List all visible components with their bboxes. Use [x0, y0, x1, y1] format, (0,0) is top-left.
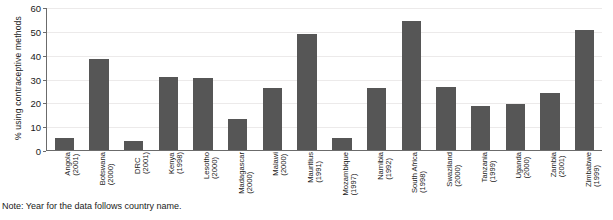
x-tick-label: Botswana(2000)	[99, 152, 116, 185]
category-slot: Malawi(2000)	[255, 152, 290, 198]
category-slot: Zambia(2001)	[533, 152, 568, 198]
x-tick-label: Madagascar(2000)	[238, 152, 255, 194]
x-tick-year: (2000)	[281, 152, 289, 176]
y-tick-label: 40	[30, 50, 41, 61]
bar-slot	[567, 8, 602, 150]
x-tick-year: (1992)	[385, 152, 393, 180]
category-slot: DRC(2001)	[116, 152, 151, 198]
x-tick-year: (2000)	[246, 152, 254, 194]
x-tick-year: (2000)	[524, 152, 532, 179]
x-tick-year: (1991)	[316, 152, 324, 183]
x-tick-year: (1997)	[350, 152, 358, 195]
x-tick-label: Mozambique(1997)	[342, 152, 359, 195]
x-tick-label: Kenya(1998)	[168, 152, 185, 174]
category-slot: Uganda(2000)	[498, 152, 533, 198]
chart-note: Note: Year for the data follows country …	[2, 201, 182, 211]
category-slot: Angola(2001)	[47, 152, 82, 198]
x-tick-label: Zimbabwe(1999)	[585, 152, 602, 187]
y-tick-mark	[43, 151, 46, 152]
category-slot: Mauritius(1991)	[290, 152, 325, 198]
x-tick-year: (1999)	[593, 152, 601, 187]
bar-slot	[325, 8, 360, 150]
y-tick-label: 0	[36, 146, 41, 157]
x-tick-year: (2000)	[212, 152, 220, 179]
bar	[228, 119, 247, 150]
x-tick-year: (2000)	[454, 152, 462, 187]
bar-slot	[255, 8, 290, 150]
bar	[436, 87, 455, 150]
y-tick-label: 60	[30, 3, 41, 14]
bar	[193, 78, 212, 150]
bar	[332, 138, 351, 150]
category-slot: Kenya(1998)	[151, 152, 186, 198]
bar	[540, 93, 559, 150]
x-tick-label: Swaziland(2000)	[446, 152, 463, 187]
bar-slot	[394, 8, 429, 150]
category-slot: Lesotho(2000)	[186, 152, 221, 198]
y-axis-title: % using contraceptive methods	[13, 3, 23, 153]
category-slot: Namibia(1992)	[359, 152, 394, 198]
x-tick-label: DRC(2001)	[134, 152, 151, 174]
category-slot: Madagascar(2000)	[220, 152, 255, 198]
x-tick-year: (1999)	[489, 152, 497, 182]
bar	[471, 106, 490, 150]
category-slot: Swaziland(2000)	[429, 152, 464, 198]
bar-slot	[498, 8, 533, 150]
bar-slot	[47, 8, 82, 150]
bar	[263, 88, 282, 150]
bar-slot	[116, 8, 151, 150]
x-tick-label: Zambia(2001)	[550, 152, 567, 177]
bar-slot	[220, 8, 255, 150]
x-tick-label: Lesotho(2000)	[203, 152, 220, 179]
bar-slot	[533, 8, 568, 150]
bar	[297, 34, 316, 150]
bar	[89, 59, 108, 150]
x-tick-year: (1998)	[420, 152, 428, 193]
x-axis-category-labels: Angola(2001)Botswana(2000)DRC(2001)Kenya…	[47, 152, 602, 198]
x-tick-label: Namibia(1992)	[377, 152, 394, 180]
bar	[575, 30, 594, 150]
bar-slot	[186, 8, 221, 150]
x-tick-year: (1998)	[177, 152, 185, 174]
bar-slot	[429, 8, 464, 150]
bar	[124, 141, 143, 150]
bar	[402, 21, 421, 150]
bar-slot	[82, 8, 117, 150]
x-tick-year: (2001)	[558, 152, 566, 177]
x-tick-label: South Africa(1998)	[411, 152, 428, 193]
x-tick-label: Mauritius(1991)	[307, 152, 324, 183]
category-slot: Mozambique(1997)	[325, 152, 360, 198]
x-tick-label: Malawi(2000)	[272, 152, 289, 176]
bar-slot	[463, 8, 498, 150]
contraceptive-use-bar-chart: % using contraceptive methods 0102030405…	[0, 0, 613, 220]
x-tick-label: Tanzania(1999)	[481, 152, 498, 182]
y-tick-label: 10	[30, 122, 41, 133]
x-tick-label: Angola(2001)	[64, 152, 81, 176]
category-slot: Tanzania(1999)	[463, 152, 498, 198]
x-tick-year: (2001)	[142, 152, 150, 174]
plot-inner: 0102030405060	[46, 8, 602, 151]
bar	[367, 88, 386, 150]
plot-area: 0102030405060	[46, 8, 602, 151]
category-slot: Botswana(2000)	[82, 152, 117, 198]
bar	[506, 104, 525, 150]
x-tick-year: (2000)	[107, 152, 115, 185]
x-tick-label: Uganda(2000)	[515, 152, 532, 179]
y-tick-label: 30	[30, 74, 41, 85]
y-tick-label: 50	[30, 26, 41, 37]
category-slot: Zimbabwe(1999)	[567, 152, 602, 198]
bar-series	[47, 8, 602, 150]
category-slot: South Africa(1998)	[394, 152, 429, 198]
x-tick-year: (2001)	[73, 152, 81, 176]
y-tick-label: 20	[30, 98, 41, 109]
bar	[55, 138, 74, 150]
bar-slot	[151, 8, 186, 150]
bar	[159, 77, 178, 150]
bar-slot	[290, 8, 325, 150]
bar-slot	[359, 8, 394, 150]
